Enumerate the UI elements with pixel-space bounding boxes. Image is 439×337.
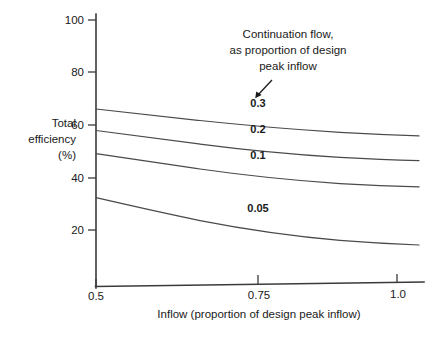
x-tick-label-0.5: 0.5: [88, 290, 104, 302]
curve-label-0.1: 0.1: [250, 149, 265, 161]
chart-canvas: 100 80 60 40 20 0.5 0.75 1.0 Inflow (pro…: [0, 0, 439, 337]
x-tick-label-1.0: 1.0: [390, 288, 406, 300]
y-tick-label-100: 100: [65, 14, 84, 26]
annotation-arrow-icon: [255, 80, 272, 98]
y-tick-label-80: 80: [71, 66, 84, 78]
y-axis-title-line-1: Total: [52, 117, 76, 129]
annotation-line-2: as proportion of design: [230, 44, 347, 56]
y-axis-title-line-2: efficiency: [28, 133, 76, 145]
curve-label-0.3: 0.3: [250, 97, 265, 109]
y-tick-label-40: 40: [71, 172, 84, 184]
annotation-line-1: Continuation flow,: [243, 28, 334, 40]
annotation-text: Continuation flow, as proportion of desi…: [230, 28, 347, 72]
figure-container: 100 80 60 40 20 0.5 0.75 1.0 Inflow (pro…: [0, 0, 439, 337]
x-axis-tick-labels: 0.5 0.75 1.0: [88, 288, 406, 302]
y-axis-title: Total efficiency (%): [28, 117, 76, 161]
x-axis-title: Inflow (proportion of design peak inflow…: [157, 308, 360, 320]
annotation-line-3: peak inflow: [259, 60, 317, 72]
x-axis-line: [96, 282, 425, 287]
y-tick-label-20: 20: [71, 224, 84, 236]
curve-labels: 0.3 0.2 0.1 0.05: [247, 97, 268, 214]
curve-label-0.2: 0.2: [250, 123, 265, 135]
x-tick-label-0.75: 0.75: [248, 289, 270, 301]
y-axis-title-line-3: (%): [58, 149, 76, 161]
curve-label-0.05: 0.05: [247, 202, 268, 214]
y-axis-ticks: [88, 20, 96, 230]
